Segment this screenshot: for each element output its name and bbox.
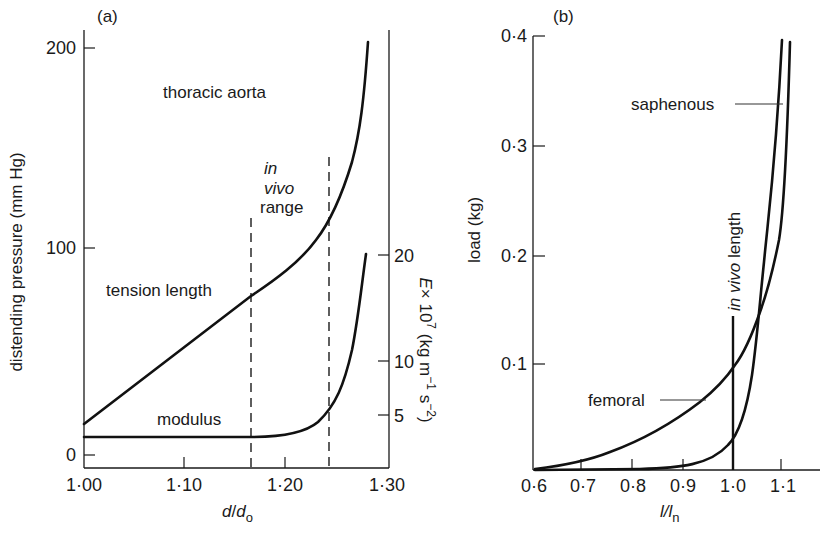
x-tick-label: 1·1 [770, 476, 796, 496]
panel-b: (b) 0·4 0·3 0·2 0·1 0·6 0·7 0·8 0·9 1·0 … [465, 7, 820, 525]
right-tick-label: 5 [394, 406, 404, 426]
left-y-axis-title: distending pressure (mm Hg) [7, 152, 26, 371]
x-tick-label: 0·9 [670, 476, 696, 496]
x-tick-label: 0·8 [620, 476, 646, 496]
panel-a: (a) 200 100 0 20 10 5 1·00 1·10 1·20 1·3… [7, 7, 438, 525]
right-tick-label: 10 [394, 352, 414, 372]
in-vivo-label-in: in [264, 159, 277, 178]
y-tick-label: 0·4 [501, 26, 527, 46]
right-y-axis-title: E× 107 (kg m−1 s−2) [416, 277, 438, 422]
femoral-label: femoral [588, 391, 645, 410]
in-vivo-length-label: in vivo length [725, 212, 744, 311]
in-vivo-label-vivo: vivo [264, 179, 294, 198]
x-tick-label: 1·10 [166, 475, 202, 495]
y-tick-label: 100 [46, 238, 76, 258]
x-axis-title: l/ln [660, 502, 680, 525]
y-tick-label: 0·1 [501, 354, 527, 374]
y-tick-label: 0·2 [501, 246, 527, 266]
tension-length-label: tension length [106, 281, 212, 300]
x-tick-label: 1·0 [720, 476, 746, 496]
figure: (a) 200 100 0 20 10 5 1·00 1·10 1·20 1·3… [0, 0, 831, 533]
x-axis-title: d/do [222, 502, 253, 525]
x-tick-label: 0·7 [570, 476, 596, 496]
x-tick-label: 0·6 [521, 476, 547, 496]
thoracic-aorta-label: thoracic aorta [163, 83, 267, 102]
modulus-label: modulus [157, 410, 221, 429]
y-tick-label: 0 [66, 445, 76, 465]
range-label: range [260, 198, 303, 217]
y-axis-title: load (kg) [465, 197, 484, 263]
panel-b-label: (b) [553, 7, 574, 26]
right-tick-label: 20 [394, 246, 414, 266]
y-tick-label: 200 [46, 38, 76, 58]
x-tick-label: 1·20 [267, 475, 303, 495]
saphenous-label: saphenous [631, 95, 714, 114]
x-tick-label: 1·00 [66, 475, 102, 495]
panel-a-label: (a) [97, 7, 118, 26]
y-tick-label: 0·3 [501, 136, 527, 156]
x-tick-label: 1·30 [369, 475, 405, 495]
